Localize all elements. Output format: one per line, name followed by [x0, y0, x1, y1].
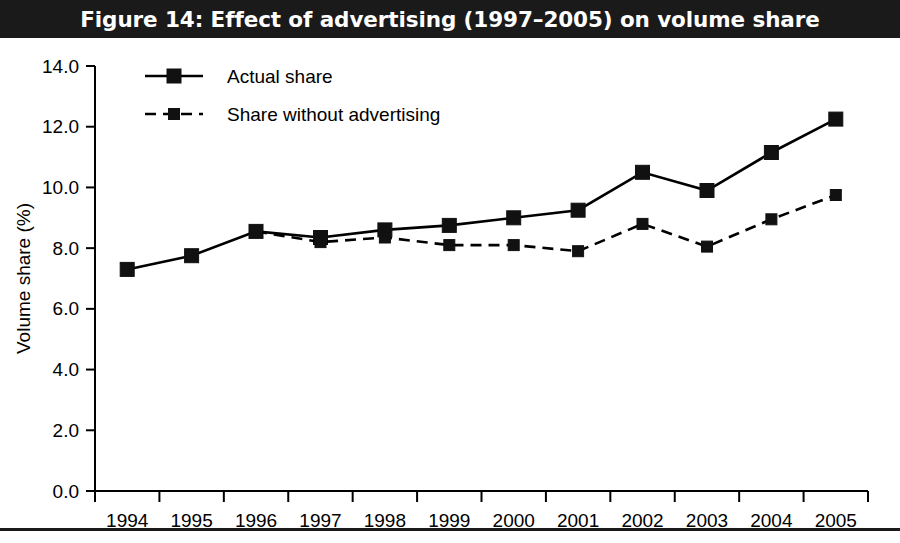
plot-area: 0.02.04.06.08.010.012.014.0 199419951996…	[0, 38, 900, 543]
y-tick-label: 8.0	[53, 238, 79, 259]
data-point-marker	[442, 218, 456, 232]
chart-series	[120, 112, 843, 276]
data-point-marker	[571, 203, 585, 217]
y-axis-ticks: 0.02.04.06.08.010.012.014.0	[42, 56, 95, 502]
data-point-marker	[636, 165, 650, 179]
y-axis-title: Volume share (%)	[13, 203, 34, 354]
legend-marker-2	[169, 109, 180, 120]
data-point-marker	[573, 246, 584, 257]
series-line-1	[127, 119, 836, 269]
data-point-marker	[120, 262, 134, 276]
data-point-marker	[315, 237, 326, 248]
legend-label-1: Actual share	[227, 66, 333, 87]
footer-rule	[0, 528, 900, 531]
data-point-marker	[251, 226, 262, 237]
legend-marker-1	[167, 69, 181, 83]
figure-container: Figure 14: Effect of advertising (1997–2…	[0, 0, 900, 543]
y-tick-label: 4.0	[53, 359, 79, 380]
y-tick-label: 0.0	[53, 481, 79, 502]
axis-lines	[95, 66, 868, 491]
chart-legend: Actual shareShare without advertising	[145, 66, 440, 125]
data-point-marker	[637, 218, 648, 229]
y-tick-label: 12.0	[42, 116, 79, 137]
data-point-marker	[508, 240, 519, 251]
data-point-marker	[507, 211, 521, 225]
data-point-marker	[444, 240, 455, 251]
y-tick-label: 14.0	[42, 56, 79, 77]
y-axis-title-label: Volume share (%)	[13, 203, 34, 354]
data-point-marker	[764, 146, 778, 160]
y-tick-label: 10.0	[42, 177, 79, 198]
legend-label-2: Share without advertising	[227, 104, 440, 125]
data-point-marker	[185, 249, 199, 263]
y-tick-label: 2.0	[53, 420, 79, 441]
line-chart: 0.02.04.06.08.010.012.014.0 199419951996…	[0, 38, 900, 543]
data-point-marker	[702, 241, 713, 252]
page-title: Figure 14: Effect of advertising (1997–2…	[80, 7, 819, 32]
data-point-marker	[829, 112, 843, 126]
chart-axes	[95, 66, 868, 491]
figure-title-bar: Figure 14: Effect of advertising (1997–2…	[0, 0, 900, 38]
y-tick-label: 6.0	[53, 298, 79, 319]
data-point-marker	[379, 232, 390, 243]
data-point-marker	[830, 190, 841, 201]
series-line-2	[256, 195, 836, 251]
data-point-marker	[700, 184, 714, 198]
x-axis-ticks: 1994199519961997199819992000200120022003…	[95, 491, 868, 531]
data-point-marker	[766, 214, 777, 225]
